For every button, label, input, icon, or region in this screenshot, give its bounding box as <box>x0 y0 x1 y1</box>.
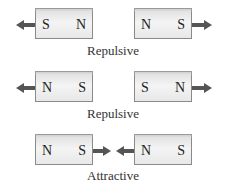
pole-label: N <box>175 80 185 96</box>
magnet-2-left: N S <box>35 74 93 102</box>
interaction-label: Repulsive <box>0 43 226 59</box>
magnet-2-right: S N <box>134 74 192 102</box>
magnet-1-right: N S <box>134 11 192 39</box>
pole-label: N <box>76 17 86 33</box>
pole-label: N <box>42 80 52 96</box>
pole-label: N <box>141 17 151 33</box>
force-arrow-right <box>192 83 212 93</box>
pole-label: S <box>78 143 86 159</box>
force-arrow-left <box>16 83 36 93</box>
force-arrow-left <box>16 20 36 30</box>
magnet-3-left: N S <box>35 137 93 165</box>
pole-label: S <box>78 80 86 96</box>
force-arrow-inward-left <box>116 146 134 156</box>
pole-label: N <box>42 143 52 159</box>
interaction-label: Attractive <box>0 168 226 184</box>
interaction-label: Repulsive <box>0 106 226 122</box>
force-arrow-inward-right <box>93 146 111 156</box>
pole-label: S <box>177 17 185 33</box>
pole-label: S <box>177 143 185 159</box>
pole-label: S <box>141 80 149 96</box>
force-arrow-right <box>192 20 212 30</box>
pole-label: N <box>141 143 151 159</box>
magnet-3-right: N S <box>134 137 192 165</box>
pole-label: S <box>42 17 50 33</box>
magnet-1-left: S N <box>35 11 93 39</box>
